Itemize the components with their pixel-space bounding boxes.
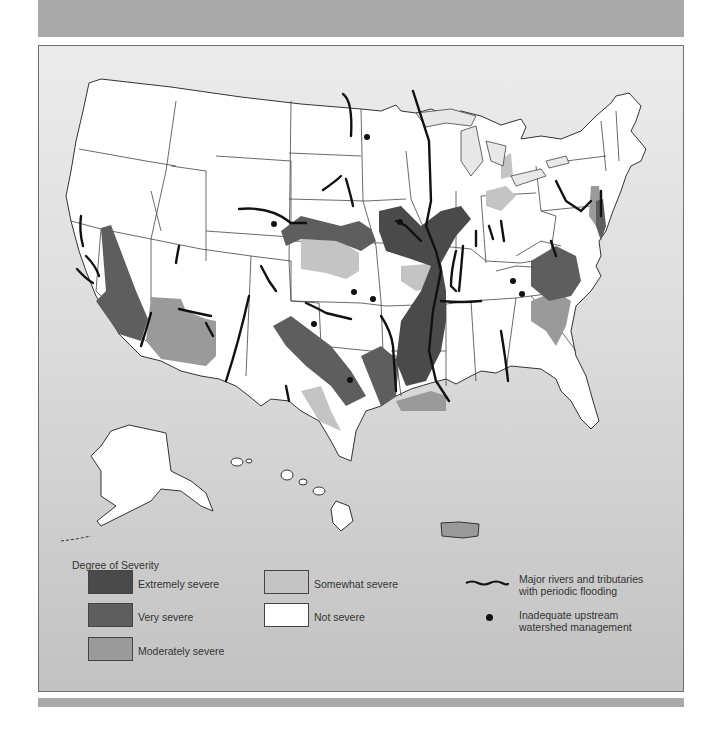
river-symbol-icon bbox=[464, 578, 509, 588]
footer-bar bbox=[38, 698, 684, 707]
legend-swatch-very-severe bbox=[88, 603, 133, 627]
legend-label-extremely-severe: Extremely severe bbox=[138, 578, 219, 590]
legend-swatch-somewhat-severe bbox=[264, 570, 309, 594]
watershed-label-line2: watershed management bbox=[519, 621, 632, 633]
legend-swatch-moderately-severe bbox=[88, 637, 133, 661]
watershed-label-line1: Inadequate upstream bbox=[519, 609, 632, 621]
legend-swatch-not-severe bbox=[264, 603, 309, 627]
rivers-label-line2: with periodic flooding bbox=[519, 585, 643, 597]
legend-label-watershed: Inadequate upstream watershed management bbox=[519, 609, 632, 633]
puerto-rico bbox=[441, 522, 479, 538]
legend-label-moderately-severe: Moderately severe bbox=[138, 645, 224, 657]
legend-label-very-severe: Very severe bbox=[138, 611, 193, 623]
hawaii bbox=[231, 458, 353, 531]
legend-label-somewhat-severe: Somewhat severe bbox=[314, 578, 398, 590]
rivers-label-line1: Major rivers and tributaries bbox=[519, 573, 643, 585]
legend-swatch-extremely-severe bbox=[88, 570, 133, 594]
legend-label-not-severe: Not severe bbox=[314, 611, 365, 623]
alaska bbox=[91, 425, 213, 526]
header-bar bbox=[38, 0, 684, 37]
legend-label-rivers: Major rivers and tributaries with period… bbox=[519, 573, 643, 597]
aleutian-islands bbox=[61, 536, 91, 541]
watershed-dot-icon bbox=[486, 614, 493, 621]
